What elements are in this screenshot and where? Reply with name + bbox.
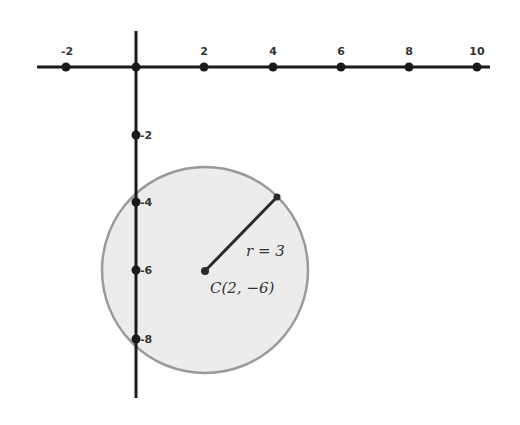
y-tick-label: -2 — [140, 129, 152, 142]
x-tick-label: 8 — [405, 45, 413, 58]
x-axis-tick-labels: -2 2 4 6 8 10 — [61, 45, 485, 58]
radius-label: r = 3 — [246, 242, 285, 260]
x-tick-dot — [405, 63, 414, 72]
x-tick-dot — [269, 63, 278, 72]
center-label: C(2, −6) — [210, 279, 275, 297]
y-tick-label: -8 — [140, 333, 152, 346]
y-tick-label: -4 — [140, 196, 153, 209]
center-point — [201, 267, 209, 275]
x-tick-dot — [473, 63, 482, 72]
x-tick-dot — [200, 63, 209, 72]
x-tick-label: -2 — [61, 45, 73, 58]
x-tick-label: 4 — [269, 45, 277, 58]
coordinate-plane-diagram: -2 2 4 6 8 10 -2 -4 -6 -8 r = 3 C(2, −6) — [0, 0, 520, 425]
x-tick-label: 6 — [337, 45, 345, 58]
x-tick-label: 2 — [200, 45, 208, 58]
y-tick-label: -6 — [140, 264, 153, 277]
origin-point — [132, 63, 141, 72]
x-tick-dot — [62, 63, 71, 72]
radius-endpoint — [274, 194, 281, 201]
x-tick-label: 10 — [469, 45, 485, 58]
x-tick-dot — [337, 63, 346, 72]
